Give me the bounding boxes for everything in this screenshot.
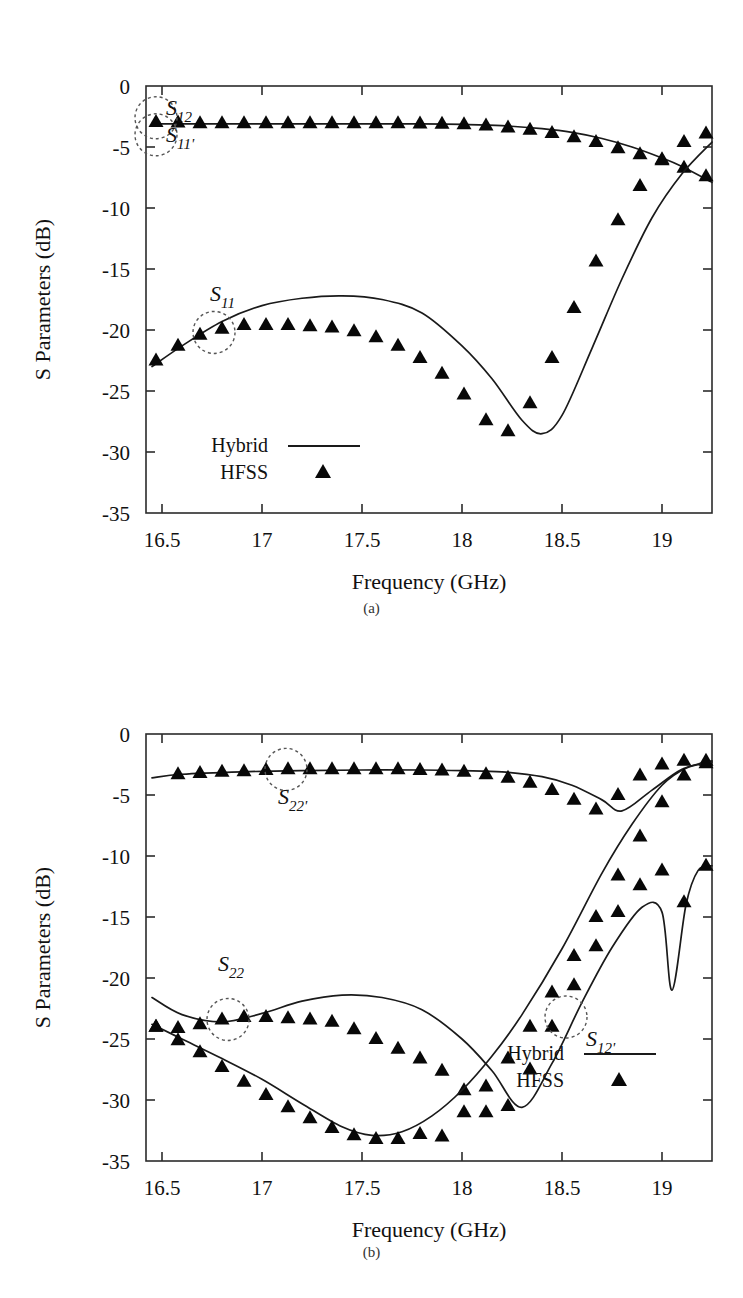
y-tick-label: 0 [120,75,131,99]
data-marker [149,114,164,127]
series-group [149,114,714,436]
data-marker [479,412,494,425]
legend-label-hybrid: Hybrid [507,1042,564,1065]
data-marker [545,350,560,363]
data-marker [633,828,648,841]
y-tick-label: -30 [102,1089,130,1113]
x-tick-label: 17.5 [344,1176,381,1200]
data-marker [567,300,582,313]
data-marker [149,352,164,365]
data-marker [633,178,648,191]
data-marker [523,775,538,788]
data-marker [193,327,208,340]
y-tick-label: -15 [102,258,130,282]
data-marker [655,794,670,807]
data-marker [391,1041,406,1054]
x-axis-title: Frequency (GHz) [352,569,507,594]
data-marker [589,254,604,267]
x-tick-label: 17.5 [344,528,381,552]
legend: HybridHFSS [211,434,360,483]
data-curve [152,762,712,1136]
chart-panel-b: 0-5-10-15-20-25-30-3516.51717.51818.519F… [0,648,743,1298]
data-marker [611,904,626,917]
data-marker [281,115,296,128]
y-tick-label: -30 [102,441,130,465]
plot-frame [146,734,712,1161]
data-marker [413,116,428,129]
data-marker [369,329,384,342]
legend-marker-sample [611,1072,627,1086]
s-parameters-plot-b: 0-5-10-15-20-25-30-3516.51717.51818.519F… [0,648,743,1298]
data-marker [325,1014,340,1027]
data-marker [347,761,362,774]
x-tick-label: 17 [252,1176,273,1200]
data-marker [215,1011,230,1024]
subcaption-b: (b) [0,1244,743,1261]
data-marker [347,323,362,336]
data-marker [611,787,626,800]
annotation-label: S11 [210,281,235,311]
data-marker [479,1079,494,1092]
annotation-label: S22 [218,951,245,981]
y-tick-label: -20 [102,967,130,991]
y-tick-label: -10 [102,845,130,869]
legend-label-hybrid: Hybrid [211,434,268,457]
x-tick-label: 16.5 [144,528,181,552]
data-marker [479,766,494,779]
data-marker [259,317,274,330]
data-marker [193,115,208,128]
y-axis-title: S Parameters (dB) [30,867,55,1028]
data-marker [369,115,384,128]
x-axis-title: Frequency (GHz) [352,1217,507,1242]
s-parameters-plot-a: 0-5-10-15-20-25-30-3516.51717.51818.519F… [0,0,743,650]
data-marker [325,320,340,333]
data-marker [435,1129,450,1142]
data-marker [325,115,340,128]
data-marker [281,761,296,774]
annotation-label: S22' [278,784,308,814]
data-marker [171,766,186,779]
y-axis-title: S Parameters (dB) [30,219,55,380]
data-marker [435,763,450,776]
data-marker [523,395,538,408]
data-marker [677,894,692,907]
y-tick-label: -25 [102,380,130,404]
data-marker [501,423,516,436]
data-marker [633,767,648,780]
data-marker [545,1019,560,1032]
legend-marker-sample [315,464,331,478]
data-marker [303,1011,318,1024]
x-tick-label: 16.5 [144,1176,181,1200]
y-tick-label: -5 [113,784,131,808]
data-marker [215,321,230,334]
data-marker [457,1104,472,1117]
x-tick-label: 18.5 [544,1176,581,1200]
data-marker [391,338,406,351]
data-marker [325,1120,340,1133]
data-marker [567,977,582,990]
data-marker [237,763,252,776]
x-tick-label: 18.5 [544,528,581,552]
data-marker [215,764,230,777]
x-tick-label: 18 [452,528,473,552]
data-marker [237,317,252,330]
data-marker [523,1019,538,1032]
chart-panel-a: 0-5-10-15-20-25-30-3516.51717.51818.519F… [0,0,743,650]
data-curve [152,761,712,811]
data-marker [171,1020,186,1033]
data-marker [259,115,274,128]
data-marker [237,1074,252,1087]
data-marker [215,115,230,128]
data-marker [347,115,362,128]
data-marker [369,761,384,774]
data-marker [545,125,560,138]
data-marker [435,366,450,379]
data-marker [325,761,340,774]
data-curve [152,124,712,183]
data-marker [457,116,472,129]
data-marker [281,317,296,330]
x-tick-label: 19 [652,528,673,552]
data-marker [677,767,692,780]
data-marker [655,151,670,164]
data-marker [611,867,626,880]
